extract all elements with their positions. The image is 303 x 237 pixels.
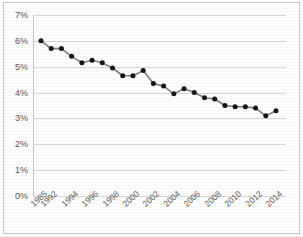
x-tick-label: 1996 — [80, 189, 100, 208]
x-tick-label: 2000 — [121, 189, 141, 208]
x-tick-label: 1998 — [101, 189, 121, 208]
x-tick-label: 2006 — [182, 189, 202, 208]
chart-figure: 0%1%2%3%4%5%6%7% 19851992199419961998200… — [0, 0, 303, 237]
x-tick-label: 1994 — [60, 189, 80, 208]
x-tick-label: 2004 — [162, 189, 182, 208]
x-tick-label: 2008 — [203, 189, 223, 208]
x-tick-label: 2002 — [141, 189, 161, 208]
x-axis-labels: 1985199219941996199820002002200420062008… — [0, 0, 303, 237]
x-tick-label: 2012 — [244, 189, 264, 208]
x-tick-label: 2010 — [223, 189, 243, 208]
x-tick-label: 2014 — [264, 189, 284, 208]
